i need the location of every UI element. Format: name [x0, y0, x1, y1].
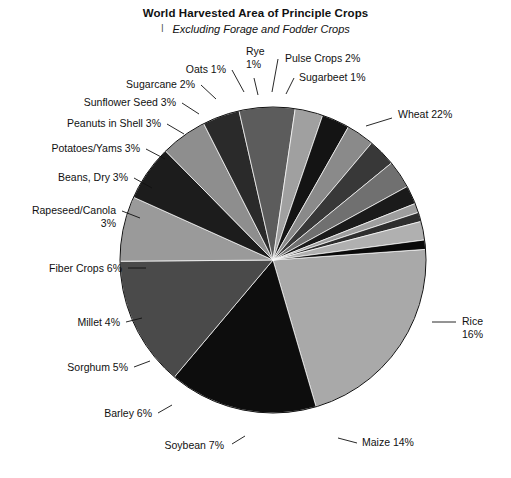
slice-label-beans-dry: Beans, Dry 3% [58, 171, 128, 183]
leader-line-barley [158, 405, 172, 413]
leader-line-sorghum [134, 361, 150, 367]
pie-chart-svg: Wheat 22%Rice 16%Maize 14%Soybean 7%Barl… [0, 0, 511, 478]
slice-label-oats: Oats 1% [186, 63, 226, 75]
leader-line-sunflower-seed [182, 103, 199, 114]
slice-label-fiber-crops: Fiber Crops 6% [49, 262, 122, 274]
leader-line-oats [232, 70, 244, 92]
slice-label-rice: Rice16% [462, 315, 483, 340]
slice-label-rapeseed-canola: Rapeseed/Canola3% [32, 204, 116, 229]
leader-line-sugarcane [201, 85, 216, 99]
pie-slices-layer: Wheat 22%Rice 16%Maize 14%Soybean 7%Barl… [120, 107, 426, 413]
slice-label-potatoes-yams: Potatoes/Yams 3% [51, 142, 140, 154]
leader-line-peanuts-in-shell [167, 124, 184, 134]
leader-line-maize [338, 438, 357, 443]
slice-label-rye: Rye1% [246, 45, 265, 70]
leader-line-wheat [366, 118, 392, 126]
leader-line-sugarbeet [286, 78, 294, 94]
slice-label-barley: Barley 6% [104, 407, 152, 419]
slice-label-millet: Millet 4% [77, 316, 120, 328]
leader-line-pulse-crops [272, 59, 278, 92]
slice-label-sugarbeet: Sugarbeet 1% [299, 71, 366, 83]
pie-chart-figure: World Harvested Area of Principle Crops … [0, 0, 511, 478]
slice-label-wheat: Wheat 22% [398, 108, 452, 120]
slice-label-sorghum: Sorghum 5% [67, 361, 128, 373]
slice-label-maize: Maize 14% [362, 436, 414, 448]
slice-label-soybean: Soybean 7% [164, 439, 224, 451]
slice-label-sunflower-seed: Sunflower Seed 3% [84, 96, 176, 108]
slice-label-sugarcane: Sugarcane 2% [126, 78, 195, 90]
leader-line-soybean [232, 436, 245, 444]
slice-label-peanuts-in-shell: Peanuts in Shell 3% [67, 117, 161, 129]
slice-label-pulse-crops: Pulse Crops 2% [285, 52, 360, 64]
leader-line-rye [254, 78, 258, 95]
